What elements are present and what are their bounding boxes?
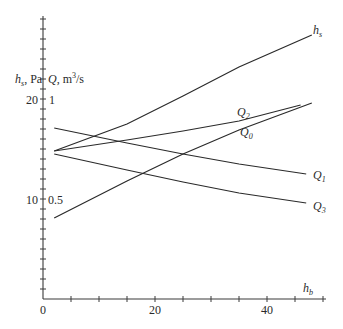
series-lines: [54, 35, 312, 218]
series-hs-line: [54, 35, 312, 151]
series-q0-line: [54, 103, 312, 218]
label-hs: hs: [313, 23, 322, 39]
x-tick-0: 0: [40, 303, 46, 317]
series-q2-line: [54, 105, 300, 151]
axes: [43, 16, 326, 299]
y-right-axis-title: Q, m3/s: [48, 71, 84, 86]
y-left-tick-10: 10: [26, 193, 38, 207]
y-right-tick-0.5: 0.5: [48, 193, 63, 207]
x-axis-title: hb: [303, 281, 313, 297]
label-q1: Q1: [313, 168, 326, 184]
x-tick-40: 40: [261, 303, 273, 317]
chart: 20 10 1 0.5 0 20 40 hs, Pa Q, m3/s hb hs…: [0, 0, 343, 329]
series-q1-line: [54, 128, 306, 174]
x-tick-20: 20: [149, 303, 161, 317]
label-q0: Q0: [240, 125, 253, 141]
label-q2: Q2: [237, 105, 250, 121]
y-left-tick-20: 20: [26, 93, 38, 107]
y-left-axis-title: hs, Pa: [15, 72, 43, 88]
label-q3: Q3: [313, 199, 326, 215]
y-right-tick-1: 1: [49, 93, 55, 107]
series-q3-line: [54, 154, 306, 203]
